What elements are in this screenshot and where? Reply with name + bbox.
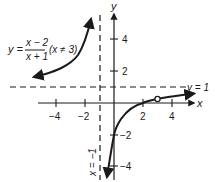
x-tick-label: −2 (78, 111, 90, 122)
function-equation: y = x − 2 x + 1 (x ≠ 3) (7, 37, 77, 62)
horizontal-asymptote-label: y = 1 (186, 82, 209, 93)
x-tick-label: 4 (169, 111, 175, 122)
y-axis-label: y (110, 0, 118, 12)
x-tick-label: −4 (49, 111, 61, 122)
y-tick-label: −4 (120, 161, 132, 172)
x-tick-label: 2 (140, 111, 146, 122)
y-tick-label: −2 (120, 130, 132, 141)
hole-open-circle (155, 96, 160, 101)
y-tick-label: 2 (122, 66, 128, 77)
vertical-asymptote-label: x = −1 (87, 148, 98, 177)
equation-condition: (x ≠ 3) (49, 44, 77, 55)
rational-function-graph: −4 −2 2 4 4 2 −2 −4 x y y = 1 x = −1 y =… (0, 0, 215, 182)
equation-lhs: y = (7, 43, 24, 55)
y-tick-label: 4 (122, 34, 128, 45)
equation-numerator: x − 2 (25, 37, 48, 48)
x-axis-label: x (196, 97, 203, 109)
equation-denominator: x + 1 (25, 51, 48, 62)
